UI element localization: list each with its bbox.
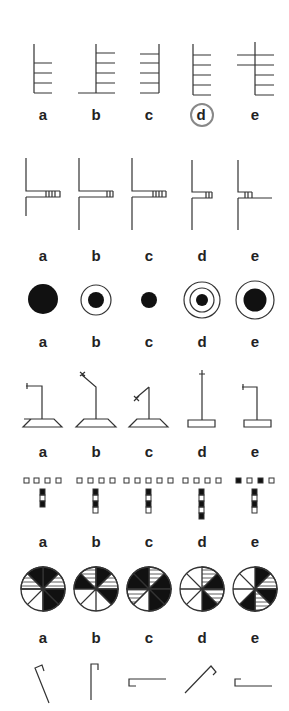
ladder-a[interactable]: [34, 44, 52, 93]
grid-c[interactable]: [124, 478, 173, 513]
option-label-d[interactable]: d: [187, 533, 217, 551]
tjunction-d[interactable]: [192, 160, 212, 230]
option-label-d[interactable]: d: [186, 106, 216, 124]
grid-d[interactable]: [183, 478, 221, 519]
option-label-c[interactable]: c: [134, 106, 164, 124]
segcircle-c[interactable]: [127, 567, 171, 611]
option-label-a[interactable]: a: [28, 443, 58, 461]
option-label-e[interactable]: e: [240, 106, 270, 124]
segcircle-a[interactable]: [21, 567, 65, 611]
ladder-b[interactable]: [78, 44, 115, 93]
option-label-d[interactable]: d: [187, 629, 217, 647]
option-label-a[interactable]: a: [28, 333, 58, 351]
option-label-d[interactable]: d: [187, 333, 217, 351]
option-label-b[interactable]: b: [81, 247, 111, 265]
circle-e[interactable]: [236, 281, 274, 319]
option-label-e[interactable]: e: [240, 629, 270, 647]
tjunction-c[interactable]: [132, 158, 166, 230]
option-label-b[interactable]: b: [81, 443, 111, 461]
option-label-c[interactable]: c: [134, 629, 164, 647]
hook-1[interactable]: [35, 665, 49, 703]
circle-d[interactable]: [184, 282, 220, 318]
option-label-b[interactable]: b: [81, 333, 111, 351]
option-label-c[interactable]: c: [134, 247, 164, 265]
stand-a[interactable]: [23, 383, 62, 427]
stand-b[interactable]: [76, 372, 116, 427]
tjunction-a[interactable]: [26, 158, 60, 216]
option-label-a[interactable]: a: [28, 629, 58, 647]
option-label-e[interactable]: e: [240, 247, 270, 265]
ladder-d[interactable]: [193, 44, 211, 95]
option-label-a[interactable]: a: [28, 106, 58, 124]
option-label-a[interactable]: a: [28, 247, 58, 265]
tjunction-b[interactable]: [79, 158, 113, 230]
option-label-a[interactable]: a: [28, 533, 58, 551]
option-label-c[interactable]: c: [134, 533, 164, 551]
tjunction-e[interactable]: [238, 160, 272, 230]
option-label-c[interactable]: c: [134, 333, 164, 351]
segcircle-d[interactable]: [180, 567, 224, 611]
grid-b[interactable]: [77, 478, 115, 513]
stand-c[interactable]: [129, 387, 168, 427]
option-label-b[interactable]: b: [81, 533, 111, 551]
option-label-c[interactable]: c: [134, 443, 164, 461]
hook-3[interactable]: [129, 679, 166, 686]
hook-2[interactable]: [91, 664, 98, 700]
ladder-e[interactable]: [237, 42, 274, 95]
option-label-e[interactable]: e: [240, 333, 270, 351]
option-label-e[interactable]: e: [240, 443, 270, 461]
segcircle-e[interactable]: [233, 567, 277, 611]
option-label-d[interactable]: d: [187, 443, 217, 461]
circle-b[interactable]: [81, 285, 111, 315]
hook-4[interactable]: [185, 666, 216, 693]
stand-d[interactable]: [188, 370, 215, 427]
grid-a[interactable]: [24, 478, 61, 507]
option-label-b[interactable]: b: [81, 629, 111, 647]
option-label-e[interactable]: e: [240, 533, 270, 551]
hook-5[interactable]: [235, 679, 272, 686]
option-label-d[interactable]: d: [187, 247, 217, 265]
stand-e[interactable]: [242, 384, 271, 427]
grid-e[interactable]: [236, 478, 274, 513]
segcircle-b[interactable]: [74, 567, 118, 611]
circle-a[interactable]: [28, 284, 58, 314]
option-label-b[interactable]: b: [81, 106, 111, 124]
ladder-c[interactable]: [140, 44, 159, 93]
circle-c[interactable]: [141, 292, 157, 308]
